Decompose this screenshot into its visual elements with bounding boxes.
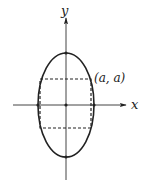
x-axis-label: x — [131, 97, 139, 112]
point-label-a-a: (a, a) — [94, 71, 126, 85]
diagram-canvas: y x (a, a) — [0, 0, 144, 186]
point-bottom-vertex — [64, 155, 67, 158]
point-origin — [64, 103, 67, 106]
point-right-vertex — [92, 103, 95, 106]
y-axis-label: y — [60, 3, 69, 18]
point-left-vertex — [36, 103, 39, 106]
point-top-vertex — [64, 51, 67, 54]
